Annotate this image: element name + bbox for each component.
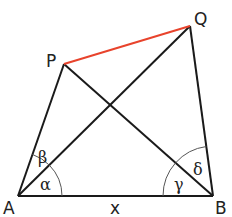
point-label-p: P <box>46 51 56 71</box>
angle-label-delta: δ <box>193 160 203 179</box>
segment-bp <box>64 64 213 196</box>
point-label-q: Q <box>194 9 207 29</box>
angle-arc-alpha <box>49 165 62 196</box>
base-length-label: x <box>110 198 120 217</box>
point-label-b: B <box>215 198 227 217</box>
angle-label-beta: β <box>38 148 47 167</box>
angle-label-alpha: α <box>40 175 51 194</box>
angle-label-gamma: γ <box>174 175 184 194</box>
geometry-diagram: A B P Q x α β γ δ <box>0 0 232 217</box>
point-label-a: A <box>3 198 15 217</box>
